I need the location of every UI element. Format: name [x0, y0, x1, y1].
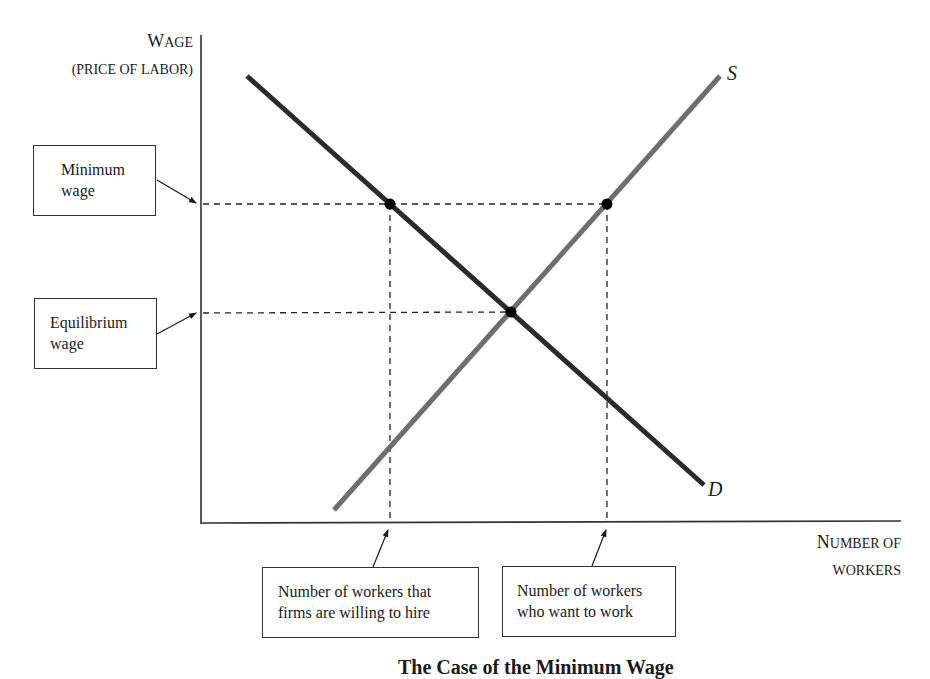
minimum-wage-callout: Minimum wage [33, 145, 156, 216]
supply-curve-label: S [727, 62, 737, 85]
min-wage-demand-point [385, 199, 396, 210]
y-axis-label-initial: W [147, 31, 164, 51]
firms-hire-callout: Number of workers that firms are willing… [262, 567, 479, 638]
minimum-wage-arrow [157, 180, 196, 203]
equilibrium-wage-guide [203, 312, 511, 313]
y-axis-sublabel: (PRICE OF LABOR) [72, 62, 193, 78]
want-work-callout-line1: Number of workers [517, 580, 675, 601]
equilibrium-wage-arrow [157, 313, 196, 334]
equilibrium-wage-callout-line1: Equilibrium [50, 312, 156, 333]
equilibrium-point [506, 307, 517, 318]
x-axis-label-initial: N [817, 532, 830, 552]
want-work-callout: Number of workers who want to work [502, 566, 676, 637]
minimum-wage-callout-line2: wage [61, 180, 155, 201]
min-wage-supply-point [602, 199, 613, 210]
x-axis-sublabel: WORKERS [833, 563, 901, 579]
demand-curve [247, 76, 704, 485]
equilibrium-wage-callout-line2: wage [50, 333, 156, 354]
y-axis-label: WAGE [147, 31, 193, 52]
y-axis-label-rest: AGE [164, 35, 193, 50]
want-work-callout-line2: who want to work [517, 601, 675, 622]
x-axis-label: NUMBER OF [817, 532, 901, 553]
diagram-caption: The Case of the Minimum Wage [398, 656, 674, 679]
firms-hire-callout-line1: Number of workers that [278, 581, 478, 602]
firms-hire-callout-line2: firms are willing to hire [278, 602, 478, 623]
demand-curve-label: D [708, 478, 722, 501]
x-axis [201, 521, 901, 523]
minimum-wage-callout-line1: Minimum [61, 159, 155, 180]
firms-hire-arrow [373, 530, 388, 567]
want-work-arrow [592, 530, 606, 566]
x-axis-label-rest: UMBER OF [830, 536, 901, 551]
equilibrium-wage-callout: Equilibrium wage [34, 298, 157, 369]
